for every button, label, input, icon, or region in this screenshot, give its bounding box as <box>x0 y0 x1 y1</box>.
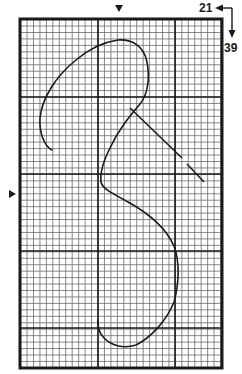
center-column-marker-icon <box>115 5 123 12</box>
row-count-label: 39 <box>224 42 237 54</box>
center-row-marker-icon <box>9 190 16 198</box>
column-count-label: 21 <box>199 2 212 14</box>
dimension-arrows <box>215 5 236 39</box>
arrow-down-icon <box>229 30 236 38</box>
arrow-left-icon <box>215 5 223 12</box>
pattern-outline-curve <box>40 40 178 347</box>
minor-grid-lines <box>20 19 222 368</box>
diagonal-guide-line <box>130 108 204 182</box>
stitch-chart <box>0 0 242 374</box>
